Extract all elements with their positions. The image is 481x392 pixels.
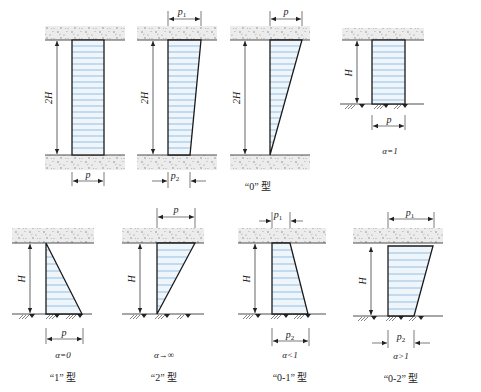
svg-text:α→∞: α→∞	[154, 350, 174, 360]
svg-text:H: H	[16, 275, 27, 284]
figure-uniform-2H: 2H p	[43, 26, 125, 186]
svg-text:p: p	[283, 6, 289, 17]
figure-type-2: H p α→∞ “2” 型	[122, 204, 204, 383]
svg-text:α>1: α>1	[393, 351, 408, 361]
figure-trapezoid-2H: 2H p1 p2	[137, 6, 217, 188]
pressure-hatch	[72, 40, 104, 155]
svg-text:H: H	[343, 69, 354, 78]
caption-type-2: “2” 型	[151, 371, 177, 383]
caption-type-0: “0” 型	[245, 180, 271, 192]
soil-bottom	[45, 155, 125, 170]
svg-text:p1: p1	[177, 6, 187, 19]
svg-text:H: H	[357, 277, 368, 286]
figure-type-0-1: H p1 p2 α<1 “0-1” 型	[238, 209, 326, 383]
svg-text:p2: p2	[285, 329, 295, 342]
diagram-canvas: 2H p 2H p1 p2	[0, 0, 481, 392]
svg-text:α<1: α<1	[282, 350, 297, 360]
svg-text:p: p	[61, 327, 67, 338]
svg-text:p: p	[386, 114, 392, 125]
caption-type-1: “1” 型	[50, 371, 76, 383]
soil-top	[45, 26, 125, 40]
svg-text:H: H	[241, 275, 252, 284]
svg-text:p1: p1	[405, 207, 415, 220]
caption-type-0-1: “0-1” 型	[273, 371, 308, 383]
figure-type-0-2: H p1 p2 α>1 “0-2” 型	[353, 207, 443, 384]
svg-text:p1: p1	[273, 209, 283, 222]
svg-text:p2: p2	[396, 331, 406, 344]
figure-uniform-H: H p α=1	[340, 28, 424, 156]
svg-text:2H: 2H	[139, 91, 150, 104]
p-label: p	[85, 169, 91, 180]
height-label: 2H	[43, 91, 54, 104]
svg-text:p: p	[173, 204, 179, 215]
figure-triangle-2H: 2H p	[230, 6, 310, 170]
svg-text:α=0: α=0	[55, 350, 71, 360]
svg-text:2H: 2H	[231, 91, 242, 104]
alpha-label: α=1	[382, 146, 397, 156]
svg-text:H: H	[126, 275, 137, 284]
caption-type-0-2: “0-2” 型	[384, 372, 419, 384]
svg-text:p2: p2	[170, 170, 180, 183]
figure-type-1: H p α=0 “1” 型	[12, 228, 94, 383]
